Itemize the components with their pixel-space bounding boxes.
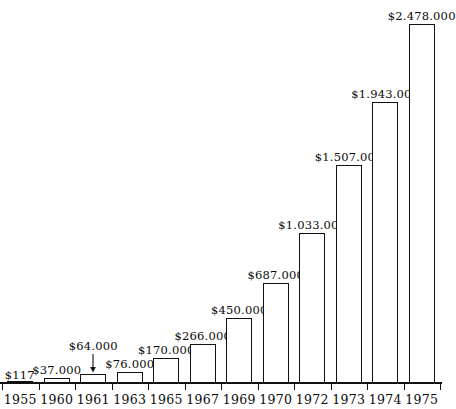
bar-group: $170.000 [153,0,179,383]
x-axis-tick [367,383,368,390]
bar[interactable] [263,283,289,383]
bar-value-label: $450.000 [211,304,267,316]
x-axis-category-label: 1970 [259,390,292,409]
x-axis-category-label: 1961 [77,390,110,409]
bar[interactable] [153,358,179,383]
bar-value-label: $170.000 [138,344,194,356]
bar-value-label: $117 [5,369,35,381]
x-axis-tick [258,383,259,390]
bar-value-label: $76.000 [105,358,154,370]
x-axis-tick [75,383,76,390]
x-axis-tick [221,383,222,390]
bar[interactable] [190,344,216,383]
bar-value-label: $2.478.000 [388,10,456,22]
x-axis-tick [148,383,149,390]
bar-value-label: $687.000 [247,269,303,281]
bar[interactable] [409,24,435,383]
bar[interactable] [336,165,362,383]
bar-group: $1.507.000 [336,0,362,383]
x-axis-tick [112,383,113,390]
bar[interactable] [226,318,252,383]
bar-group: $450.000 [226,0,252,383]
bar[interactable] [299,233,325,383]
bar-value-label: $37.000 [32,364,81,376]
x-axis-category-label: 1969 [223,390,256,409]
x-axis-tick [331,383,332,390]
bar-group: $266.000 [190,0,216,383]
x-axis-category-label: 1963 [113,390,146,409]
x-axis-tick [294,383,295,390]
leader-arrow-icon [90,354,97,373]
x-axis-tick [440,383,441,390]
bar-group: $76.000 [117,0,143,383]
bar-group: $1.943.000 [372,0,398,383]
x-axis-category-label: 1974 [369,390,402,409]
x-axis-tick [39,383,40,390]
x-axis-category-label: 1972 [296,390,329,409]
plot-area: $117$37.000$64.000$76.000$170.000$266.00… [0,0,442,383]
x-axis-label-row: 1955196019611963196519671969197019721973… [0,390,442,409]
bar-value-label: $266.000 [174,330,230,342]
bar-group: $2.478.000 [409,0,435,383]
x-axis-category-label: 1975 [405,390,438,409]
x-axis-category-label: 1973 [332,390,365,409]
x-axis-tick [404,383,405,390]
bar-value-label: $64.000 [69,340,118,352]
bar-group: $37.000 [44,0,70,383]
x-axis-category-label: 1960 [40,390,73,409]
bar-group: $117 [7,0,33,383]
bar-group: $687.000 [263,0,289,383]
bar[interactable] [372,102,398,383]
x-axis-category-label: 1967 [186,390,219,409]
bar-group: $1.033.000 [299,0,325,383]
bar-group: $64.000 [80,0,106,383]
x-axis-tick [2,383,3,390]
x-axis-tick [185,383,186,390]
x-axis-category-label: 1955 [4,390,37,409]
x-axis-category-label: 1965 [150,390,183,409]
